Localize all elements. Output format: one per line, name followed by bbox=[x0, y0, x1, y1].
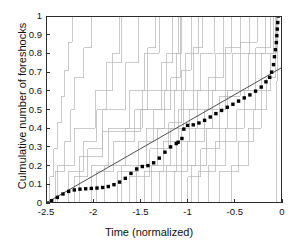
y-tick-mark bbox=[46, 146, 50, 147]
x-tick-label: -1 bbox=[168, 207, 208, 217]
x-tick-mark bbox=[93, 199, 94, 203]
x-axis-label: Time (normalized) bbox=[0, 226, 298, 238]
x-tick-label: 0 bbox=[262, 207, 298, 217]
y-tick-mark bbox=[46, 16, 50, 17]
y-tick-mark bbox=[46, 90, 50, 91]
y-tick-mark bbox=[46, 72, 50, 73]
y-tick-mark bbox=[46, 109, 50, 110]
x-tick-mark bbox=[234, 199, 235, 203]
y-tick-mark bbox=[46, 53, 50, 54]
y-tick-mark bbox=[46, 203, 50, 204]
x-tick-label: -2.5 bbox=[26, 207, 66, 217]
y-tick-mark bbox=[46, 128, 50, 129]
x-tick-mark bbox=[46, 199, 47, 203]
plot-canvas bbox=[46, 16, 282, 203]
y-tick-mark bbox=[46, 165, 50, 166]
y-axis-label: Culmulative number of foreshocks bbox=[16, 16, 28, 196]
y-tick-mark bbox=[46, 34, 50, 35]
x-tick-label: -1.5 bbox=[120, 207, 160, 217]
x-tick-mark bbox=[140, 199, 141, 203]
x-tick-label: -0.5 bbox=[215, 207, 255, 217]
step-curves-group bbox=[46, 16, 282, 203]
figure-container: 00.10.20.30.40.50.60.70.80.91-2.5-2-1.5-… bbox=[0, 0, 298, 246]
reference-line bbox=[46, 67, 282, 203]
y-tick-mark bbox=[46, 184, 50, 185]
x-tick-mark bbox=[187, 199, 188, 203]
plot-area bbox=[46, 16, 282, 203]
x-tick-mark bbox=[282, 199, 283, 203]
x-tick-label: -2 bbox=[73, 207, 113, 217]
